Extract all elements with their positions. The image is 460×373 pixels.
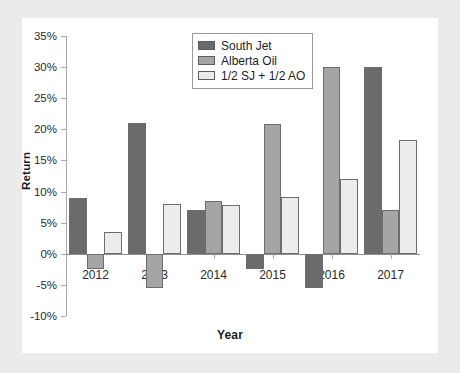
legend: South Jet Alberta Oil 1/2 SJ + 1/2 AO [192,33,313,89]
bar [128,123,146,254]
legend-item: 1/2 SJ + 1/2 AO [198,68,305,83]
bar [205,201,223,254]
chart-screenshot: Return Year 35%30%25%20%15%10%5%0%-5%-10… [0,0,460,373]
bar [69,198,87,254]
y-tick-label: -5% [37,279,57,291]
y-tick [61,160,66,161]
legend-item: Alberta Oil [198,53,305,68]
y-tick [61,129,66,130]
y-tick-label: 0% [40,248,57,260]
y-tick-label: -10% [30,310,57,322]
y-tick [61,98,66,99]
bar [246,254,264,270]
y-axis-line [66,36,67,316]
bar [364,67,382,254]
y-axis-title: Return [20,152,32,190]
bar [146,254,164,288]
x-tick-label: 2017 [377,268,404,282]
legend-label: Alberta Oil [221,54,277,68]
legend-item: South Jet [198,38,305,53]
y-tick [61,254,66,255]
bar [222,205,240,254]
legend-swatch-blend [198,71,215,80]
x-tick [214,254,215,259]
y-tick-label: 5% [40,217,57,229]
x-tick-label: 2012 [82,268,109,282]
x-tick-label: 2014 [200,268,227,282]
bar [323,67,341,254]
y-tick [61,67,66,68]
legend-swatch-alberta-oil [198,56,215,65]
bar [163,204,181,254]
x-axis-title: Year [22,328,438,342]
legend-label: 1/2 SJ + 1/2 AO [221,69,305,83]
y-tick [61,316,66,317]
y-tick [61,223,66,224]
bar [264,124,282,253]
x-tick [332,254,333,259]
y-tick-label: 30% [34,61,57,73]
bar [104,232,122,254]
x-axis-line [66,254,420,255]
bar [399,140,417,254]
y-tick [61,36,66,37]
legend-swatch-south-jet [198,41,215,50]
bar [340,179,358,254]
x-tick [273,254,274,259]
bar [87,254,105,270]
x-tick [391,254,392,259]
bar [187,210,205,254]
y-tick [61,192,66,193]
bar [305,254,323,288]
bar [382,210,400,254]
y-tick-label: 25% [34,92,57,104]
y-tick-label: 15% [34,154,57,166]
y-tick-label: 20% [34,123,57,135]
y-tick [61,285,66,286]
bar [281,197,299,254]
y-tick-label: 35% [34,30,57,42]
legend-label: South Jet [221,39,272,53]
y-tick-label: 10% [34,186,57,198]
x-tick-label: 2015 [259,268,286,282]
chart-panel: Return Year 35%30%25%20%15%10%5%0%-5%-10… [22,18,438,353]
